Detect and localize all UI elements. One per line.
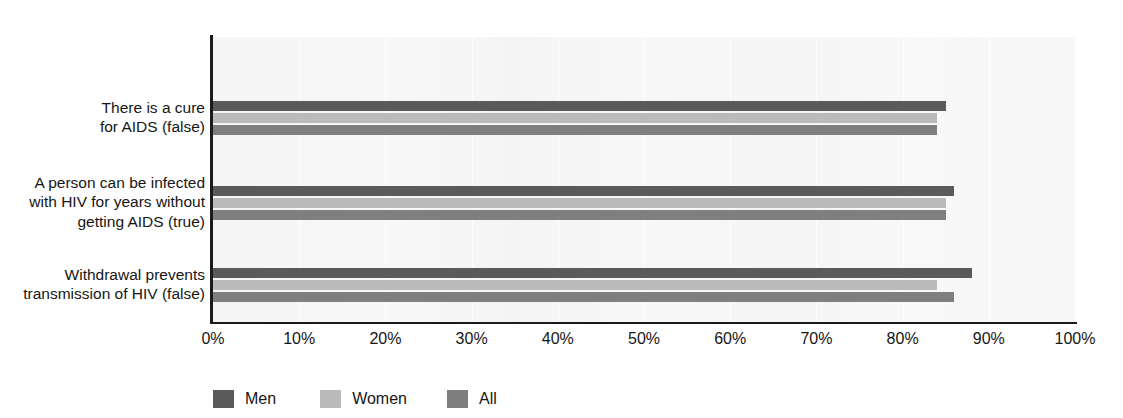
- x-tick-80pct: 80%: [868, 330, 938, 348]
- x-tick-20pct: 20%: [350, 330, 420, 348]
- legend-item-women[interactable]: Women: [320, 390, 407, 408]
- x-tick-90pct: 90%: [954, 330, 1024, 348]
- bar-men-group-3: [213, 268, 972, 278]
- x-tick-30pct: 30%: [437, 330, 507, 348]
- legend-label: Men: [245, 390, 276, 408]
- category-label-2: A person can be infected with HIV for ye…: [0, 173, 205, 232]
- bar-all-group-3: [213, 292, 954, 302]
- gridline: [1075, 37, 1076, 322]
- x-axis-line: [210, 322, 1077, 324]
- legend-label: Women: [352, 390, 407, 408]
- x-tick-50pct: 50%: [609, 330, 679, 348]
- x-tick-100pct: 100%: [1040, 330, 1110, 348]
- legend-item-men[interactable]: Men: [213, 390, 276, 408]
- plot-area: [213, 37, 1075, 322]
- bar-all-group-1: [213, 125, 937, 135]
- x-tick-60pct: 60%: [695, 330, 765, 348]
- category-label-3: Withdrawal prevents transmission of HIV …: [0, 265, 205, 304]
- gridline: [989, 37, 990, 322]
- bar-women-group-2: [213, 198, 946, 208]
- legend-swatch-men-icon: [213, 390, 234, 408]
- legend-swatch-women-icon: [320, 390, 341, 408]
- bar-men-group-1: [213, 101, 946, 111]
- legend-swatch-all-icon: [447, 390, 468, 408]
- bar-chart: There is a cure for AIDS (false)A person…: [0, 0, 1123, 418]
- category-label-1: There is a cure for AIDS (false): [0, 98, 205, 137]
- legend: MenWomenAll: [213, 388, 533, 410]
- x-tick-0pct: 0%: [178, 330, 248, 348]
- y-axis-line: [210, 35, 213, 324]
- chart-title-cropped: [0, 0, 1123, 4]
- x-tick-10pct: 10%: [264, 330, 334, 348]
- bar-men-group-2: [213, 186, 954, 196]
- bar-women-group-3: [213, 280, 937, 290]
- legend-item-all[interactable]: All: [447, 390, 497, 408]
- legend-label: All: [479, 390, 497, 408]
- x-tick-40pct: 40%: [523, 330, 593, 348]
- x-tick-70pct: 70%: [781, 330, 851, 348]
- bar-all-group-2: [213, 210, 946, 220]
- bar-women-group-1: [213, 113, 937, 123]
